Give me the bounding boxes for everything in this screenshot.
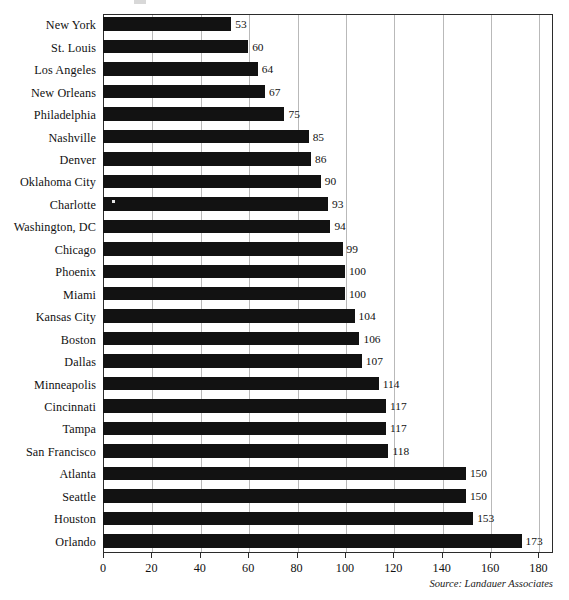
bar-row: 150 bbox=[103, 489, 553, 503]
bar bbox=[103, 287, 345, 301]
bar bbox=[103, 17, 231, 31]
bar-row: 114 bbox=[103, 377, 553, 391]
bar-row: 100 bbox=[103, 287, 553, 301]
bar-row: 100 bbox=[103, 265, 553, 279]
bar bbox=[103, 467, 466, 481]
x-tick-mark bbox=[103, 553, 104, 558]
bar-value-label: 60 bbox=[248, 41, 263, 53]
x-tick-mark bbox=[345, 553, 346, 558]
bar bbox=[103, 489, 466, 503]
x-tick-mark bbox=[248, 553, 249, 558]
category-label: Chicago bbox=[0, 244, 96, 257]
bar bbox=[103, 332, 359, 346]
category-axis-labels: New YorkSt. LouisLos AngelesNew OrleansP… bbox=[0, 14, 96, 553]
category-label: Los Angeles bbox=[0, 64, 96, 77]
x-tick-label: 0 bbox=[100, 562, 106, 575]
bar-row: 53 bbox=[103, 17, 553, 31]
x-tick-label: 40 bbox=[194, 562, 206, 575]
bar bbox=[103, 40, 248, 54]
x-tick-label: 80 bbox=[290, 562, 302, 575]
category-label: Philadelphia bbox=[0, 109, 96, 122]
category-label: Nashville bbox=[0, 132, 96, 145]
category-label: Phoenix bbox=[0, 266, 96, 279]
bar-row: 106 bbox=[103, 332, 553, 346]
category-label: San Francisco bbox=[0, 446, 96, 459]
bar-row: 117 bbox=[103, 422, 553, 436]
bars-layer: 5360646775858690939499100100104106107114… bbox=[103, 14, 553, 553]
bar-value-label: 173 bbox=[522, 535, 543, 547]
category-label: New York bbox=[0, 19, 96, 32]
source-note: Source: Landauer Associates bbox=[429, 578, 553, 589]
bar-row: 64 bbox=[103, 62, 553, 76]
x-tick-label: 180 bbox=[529, 562, 547, 575]
bar-value-label: 85 bbox=[309, 131, 324, 143]
bar bbox=[103, 197, 328, 211]
category-label: Minneapolis bbox=[0, 379, 96, 392]
bar-value-label: 100 bbox=[345, 265, 366, 277]
x-tick-mark bbox=[490, 553, 491, 558]
x-tick-label: 100 bbox=[336, 562, 354, 575]
x-tick-mark bbox=[297, 553, 298, 558]
bar bbox=[103, 354, 362, 368]
category-label: Charlotte bbox=[0, 199, 96, 212]
category-label: Kansas City bbox=[0, 311, 96, 324]
x-tick-mark bbox=[393, 553, 394, 558]
category-label: Cincinnati bbox=[0, 401, 96, 414]
bar-row: 90 bbox=[103, 175, 553, 189]
bar bbox=[103, 62, 258, 76]
category-label: Houston bbox=[0, 513, 96, 526]
bar-row: 153 bbox=[103, 512, 553, 526]
bar-row: 150 bbox=[103, 467, 553, 481]
x-tick-label: 140 bbox=[433, 562, 451, 575]
x-tick-label: 60 bbox=[242, 562, 254, 575]
bar bbox=[103, 309, 355, 323]
x-tick-label: 20 bbox=[145, 562, 157, 575]
category-label: Tampa bbox=[0, 423, 96, 436]
x-tick-mark bbox=[538, 553, 539, 558]
bar-row: 107 bbox=[103, 354, 553, 368]
category-label: Washington, DC bbox=[0, 221, 96, 234]
bar-row: 104 bbox=[103, 309, 553, 323]
category-label: Orlando bbox=[0, 536, 96, 549]
bar-chart: New YorkSt. LouisLos AngelesNew OrleansP… bbox=[0, 0, 569, 600]
category-label: Dallas bbox=[0, 356, 96, 369]
bar bbox=[103, 512, 473, 526]
bar-value-label: 117 bbox=[386, 400, 407, 412]
category-label: Seattle bbox=[0, 491, 96, 504]
bar-row: 60 bbox=[103, 40, 553, 54]
bar-value-label: 150 bbox=[466, 467, 487, 479]
category-label: Atlanta bbox=[0, 468, 96, 481]
bar bbox=[103, 242, 343, 256]
bar-row: 117 bbox=[103, 399, 553, 413]
x-tick-mark bbox=[442, 553, 443, 558]
bar-value-label: 86 bbox=[311, 153, 326, 165]
bar bbox=[103, 265, 345, 279]
bar-value-label: 114 bbox=[379, 378, 400, 390]
category-label: Boston bbox=[0, 334, 96, 347]
bar-value-label: 107 bbox=[362, 355, 383, 367]
bar-value-label: 99 bbox=[343, 243, 358, 255]
bar-value-label: 90 bbox=[321, 175, 336, 187]
bar bbox=[103, 152, 311, 166]
bar-value-label: 118 bbox=[388, 445, 409, 457]
x-tick-mark bbox=[151, 553, 152, 558]
bar bbox=[103, 377, 379, 391]
bar-row: 85 bbox=[103, 130, 553, 144]
bar-value-label: 104 bbox=[355, 310, 376, 322]
bar-row: 173 bbox=[103, 534, 553, 548]
bar-value-label: 93 bbox=[328, 198, 343, 210]
bar-row: 94 bbox=[103, 220, 553, 234]
bar bbox=[103, 107, 284, 121]
bar-speck-artifact bbox=[112, 200, 115, 203]
bar-row: 75 bbox=[103, 107, 553, 121]
x-tick-label: 160 bbox=[481, 562, 499, 575]
bar-value-label: 53 bbox=[231, 18, 246, 30]
bar-value-label: 153 bbox=[473, 512, 494, 524]
category-label: Oklahoma City bbox=[0, 176, 96, 189]
scan-artifact bbox=[134, 0, 146, 4]
bar-value-label: 94 bbox=[330, 220, 345, 232]
bar bbox=[103, 220, 330, 234]
category-label: Denver bbox=[0, 154, 96, 167]
bar-value-label: 100 bbox=[345, 288, 366, 300]
bar-row: 99 bbox=[103, 242, 553, 256]
